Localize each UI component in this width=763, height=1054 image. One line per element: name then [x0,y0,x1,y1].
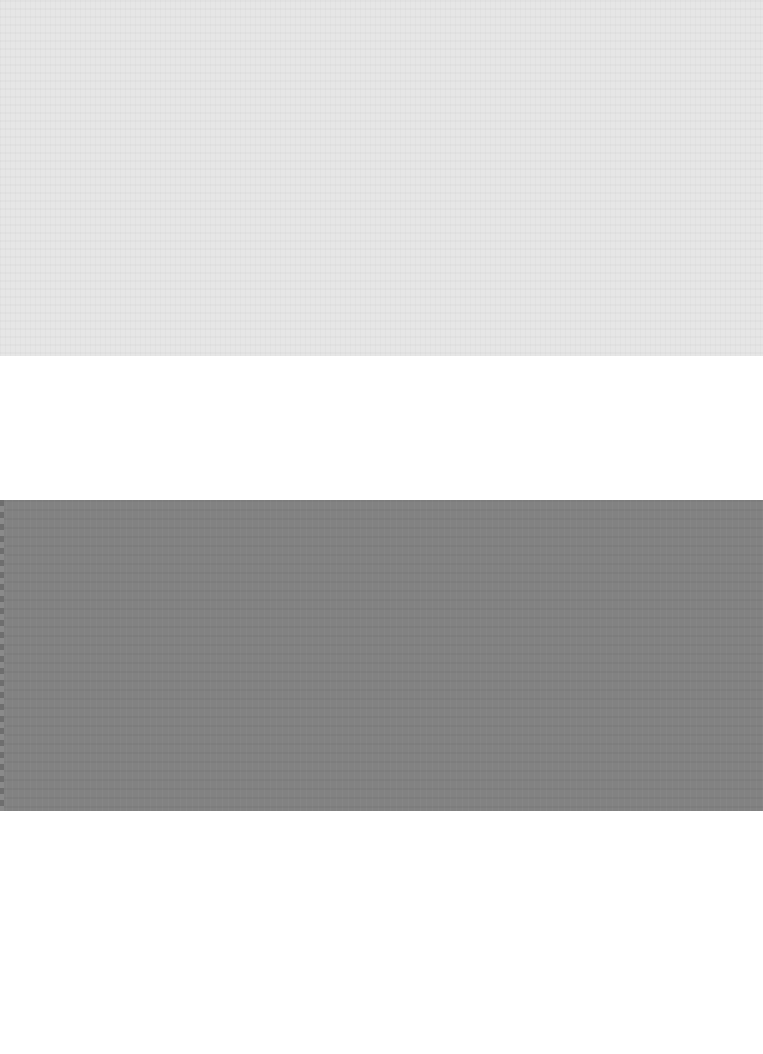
light-gray-band [0,0,763,356]
dark-gray-band [0,500,763,811]
white-bottom-area [0,811,763,1054]
white-gap [0,356,763,500]
